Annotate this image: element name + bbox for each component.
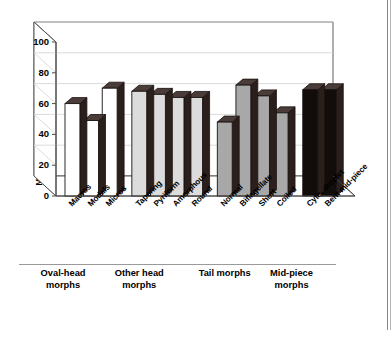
group-label-3: Mid-piece morphs xyxy=(237,268,347,291)
bar-0 xyxy=(65,98,87,196)
bar-3 xyxy=(132,85,154,196)
y-tick-0: 0 xyxy=(23,191,49,201)
y-tick-100: 100 xyxy=(23,37,49,47)
group-rule-1 xyxy=(95,264,183,265)
y-tick-40: 40 xyxy=(23,129,49,139)
figure: Mean proportion retained by female (%) 0… xyxy=(0,0,391,354)
y-tick-80: 80 xyxy=(23,68,49,78)
y-tick-20: 20 xyxy=(23,160,49,170)
group-rule-0 xyxy=(19,264,107,265)
group-rule-3 xyxy=(248,264,336,265)
y-tick-60: 60 xyxy=(23,99,49,109)
bar-11 xyxy=(303,84,325,196)
plot-area: 020406080100 MacrosModalsMicrosTaperingP… xyxy=(0,0,391,240)
